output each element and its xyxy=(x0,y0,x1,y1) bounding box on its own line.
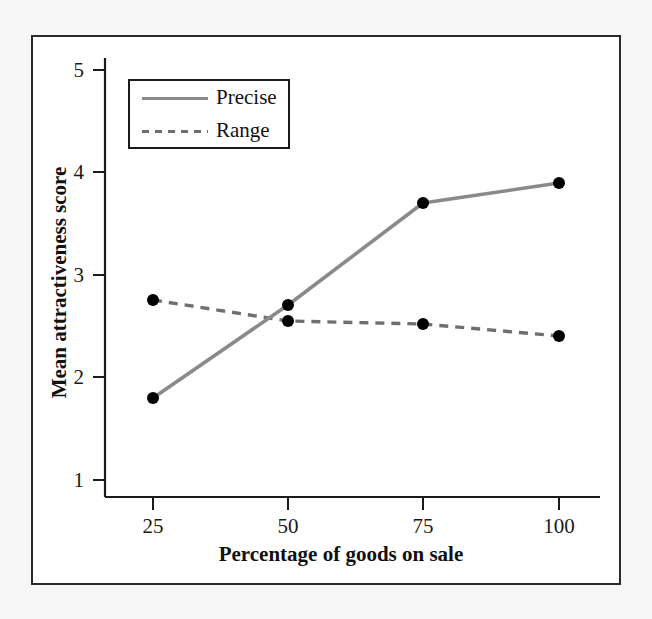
legend-item-precise: Precise xyxy=(130,81,292,116)
data-point-range-25 xyxy=(147,294,159,306)
x-tick-label-75: 75 xyxy=(393,514,453,539)
legend-label-range: Range xyxy=(216,118,270,143)
data-point-range-100 xyxy=(553,330,565,342)
data-point-precise-75 xyxy=(417,197,429,209)
data-point-range-50 xyxy=(282,315,294,327)
x-tick-label-50: 50 xyxy=(258,514,318,539)
y-axis-title: Mean attractiveness score xyxy=(47,153,72,413)
legend-item-range: Range xyxy=(130,114,292,149)
data-point-precise-50 xyxy=(282,299,294,311)
figure-canvas: 5 4 3 2 1 25 50 75 100 Percentage of goo… xyxy=(0,0,652,619)
legend-swatch-precise-icon xyxy=(142,97,208,100)
data-point-precise-100 xyxy=(553,177,565,189)
y-tick-label-1: 1 xyxy=(46,468,84,493)
y-tick-label-5: 5 xyxy=(46,58,84,83)
series-line-precise xyxy=(153,183,559,398)
chart-legend: Precise Range xyxy=(128,79,290,149)
legend-swatch-range-icon xyxy=(142,130,208,133)
x-tick-label-100: 100 xyxy=(529,514,589,539)
x-tick-label-25: 25 xyxy=(123,514,183,539)
legend-label-precise: Precise xyxy=(216,85,277,110)
series-line-range xyxy=(153,300,559,336)
data-point-range-75 xyxy=(417,318,429,330)
x-axis-title: Percentage of goods on sale xyxy=(106,542,576,567)
data-point-precise-25 xyxy=(147,392,159,404)
